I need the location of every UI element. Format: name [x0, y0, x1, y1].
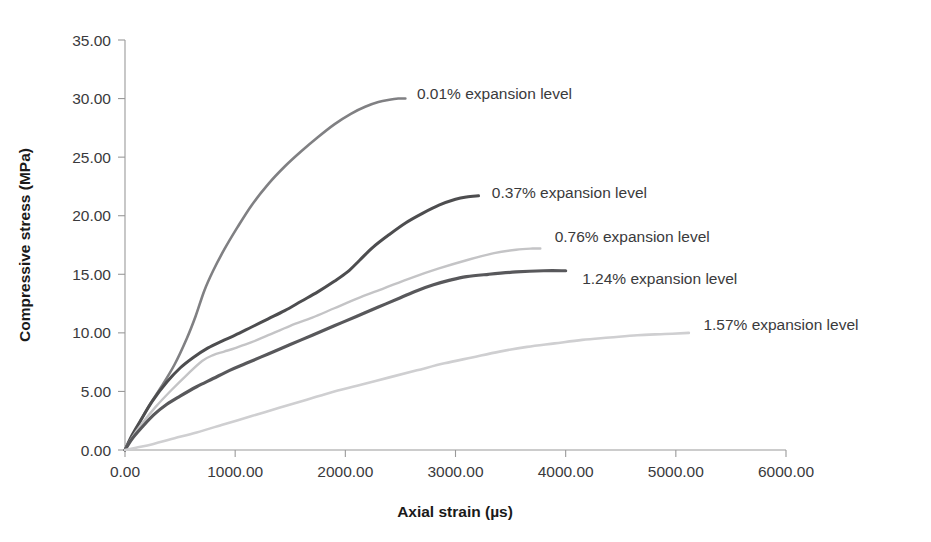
- y-tick-label: 5.00: [81, 383, 112, 400]
- x-tick-label: 6000.00: [758, 463, 814, 480]
- chart-figure: 0.005.0010.0015.0020.0025.0030.0035.00 0…: [0, 0, 931, 542]
- x-tick-label: 0.00: [110, 463, 141, 480]
- series-label: 0.01% expansion level: [417, 85, 572, 102]
- y-tick-label: 25.00: [72, 149, 111, 166]
- y-tick-label: 0.00: [81, 442, 112, 459]
- y-axis-title: Compressive stress (MPa): [16, 148, 33, 342]
- x-axis-title: Axial strain (µs): [397, 503, 513, 520]
- chart-background: [0, 0, 931, 542]
- y-tick-label: 20.00: [72, 207, 111, 224]
- x-tick-label: 4000.00: [538, 463, 594, 480]
- y-tick-label: 15.00: [72, 266, 111, 283]
- stress-strain-line-chart: 0.005.0010.0015.0020.0025.0030.0035.00 0…: [0, 0, 931, 542]
- series-label: 1.24% expansion level: [582, 270, 737, 287]
- y-tick-label: 10.00: [72, 324, 111, 341]
- series-label: 0.76% expansion level: [555, 228, 710, 245]
- y-tick-label: 35.00: [72, 32, 111, 49]
- x-tick-label: 2000.00: [317, 463, 373, 480]
- series-label: 1.57% expansion level: [703, 316, 858, 333]
- series-label: 0.37% expansion level: [492, 184, 647, 201]
- x-tick-label: 3000.00: [427, 463, 483, 480]
- y-tick-label: 30.00: [72, 90, 111, 107]
- x-tick-label: 5000.00: [648, 463, 704, 480]
- x-tick-label: 1000.00: [207, 463, 263, 480]
